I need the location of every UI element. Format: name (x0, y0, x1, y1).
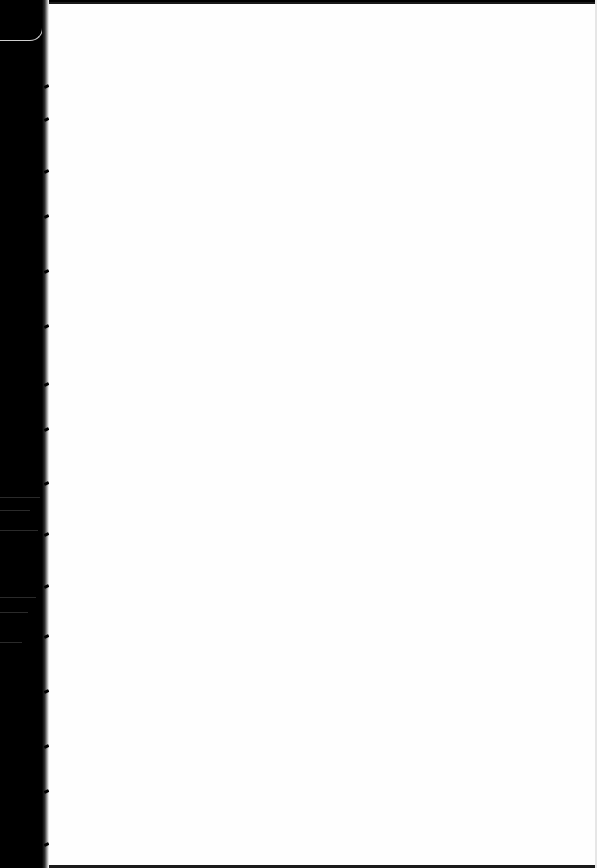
blank-page (42, 2, 597, 868)
gutter-streak (0, 510, 30, 511)
gutter-streak (0, 530, 38, 531)
page-left-edge (42, 0, 49, 868)
gutter-streak (0, 612, 28, 613)
binding-thread (0, 28, 43, 41)
gutter-streak (0, 497, 40, 498)
gutter-streak (0, 642, 22, 643)
binding-gutter (0, 0, 48, 868)
gutter-streak (0, 597, 36, 598)
